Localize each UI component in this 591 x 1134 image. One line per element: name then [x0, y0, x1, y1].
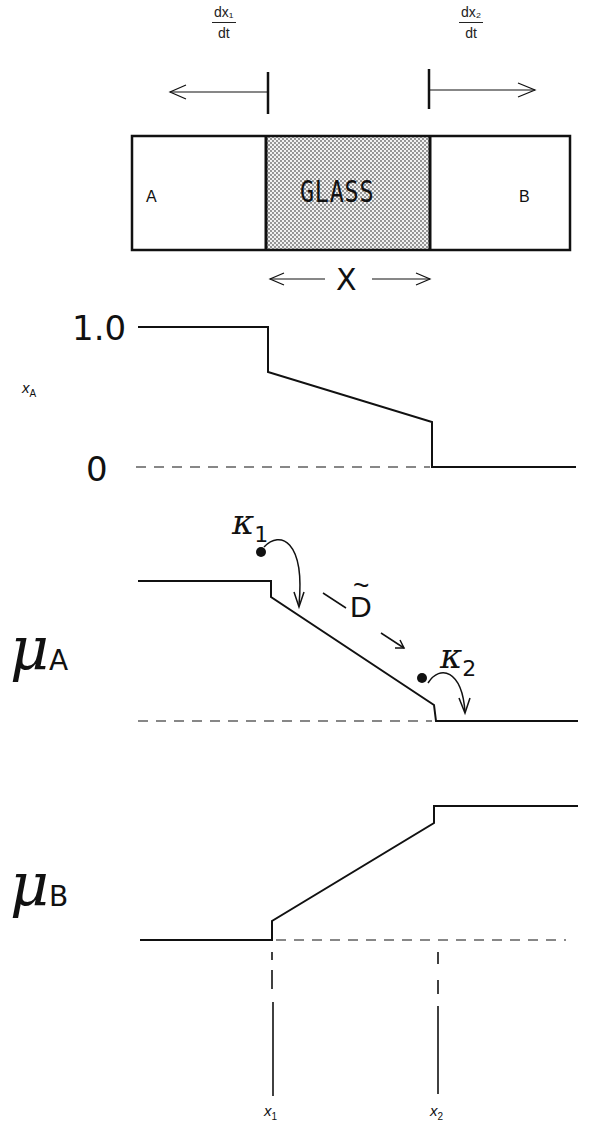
k2-subscript: 2 — [462, 656, 476, 681]
xa-subscript: A — [30, 388, 37, 399]
x1-subscript: 1 — [272, 1111, 278, 1122]
k1-label: κ1 — [232, 502, 268, 547]
rate-numerator: dx₂ — [459, 4, 483, 23]
rate-denominator: dt — [459, 23, 483, 41]
mub-axis-label: μB — [10, 850, 68, 920]
kappa-symbol: κ — [232, 502, 254, 542]
mu-symbol: μ — [10, 850, 49, 920]
mu-symbol: μ — [10, 614, 49, 684]
mua-subscript: A — [49, 644, 68, 677]
x1-symbol: x — [264, 1102, 272, 1119]
xa-symbol: x — [22, 379, 30, 396]
xa-axis-label: xA — [22, 379, 36, 399]
diagram-canvas — [0, 0, 591, 1134]
rate-denominator: dt — [212, 23, 236, 41]
xa-tick-top: 1.0 — [72, 308, 126, 348]
rate-numerator: dx₁ — [212, 4, 236, 23]
mub-subscript: B — [49, 880, 68, 913]
right-interface-velocity-arrow — [429, 69, 535, 109]
xa-profile-plot — [136, 327, 576, 467]
left-interface-velocity-arrow — [170, 72, 268, 114]
mub-profile-plot — [140, 806, 578, 940]
x1-label: x1 — [264, 1102, 277, 1122]
x2-label: x2 — [430, 1102, 443, 1122]
k1-subscript: 1 — [254, 522, 268, 547]
right-interface-rate-label: dx₂ dt — [459, 4, 483, 41]
region-a-label: A — [146, 188, 157, 206]
x2-symbol: x — [430, 1102, 438, 1119]
left-interface-rate-label: dx₁ dt — [212, 4, 236, 41]
thickness-label: X — [336, 262, 357, 297]
x1-marker-line — [272, 952, 273, 1096]
xa-tick-bottom: 0 — [86, 449, 108, 489]
mua-profile-plot — [138, 540, 578, 721]
kappa-symbol: κ — [440, 636, 462, 676]
glass-label: GLASS — [300, 174, 374, 209]
tilde-accent: ~ — [353, 570, 369, 602]
k2-label: κ2 — [440, 636, 476, 681]
region-b-label: B — [519, 188, 530, 206]
mua-axis-label: μA — [10, 614, 68, 684]
x2-subscript: 2 — [438, 1111, 444, 1122]
diffusion-coefficient-label: ~ D — [350, 590, 372, 624]
